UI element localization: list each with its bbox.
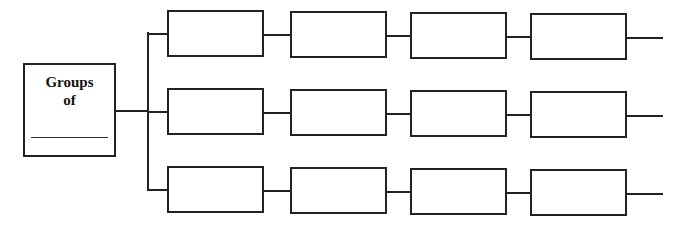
connector-line — [387, 113, 410, 115]
row-1-box-4[interactable] — [530, 13, 627, 60]
row-3-box-3[interactable] — [410, 168, 507, 215]
connector-line — [264, 190, 290, 192]
connector-line — [387, 191, 410, 193]
row-3-box-4[interactable] — [530, 169, 627, 216]
connector-line — [507, 114, 530, 116]
row-2-box-3[interactable] — [410, 90, 507, 137]
row-2-box-4[interactable] — [530, 91, 627, 138]
row-1-box-3[interactable] — [410, 12, 507, 59]
row-2-box-2[interactable] — [290, 89, 387, 136]
connector-line — [507, 192, 530, 194]
groups-of-box: Groups of — [23, 63, 116, 157]
connector-line — [264, 34, 290, 36]
row-branch-line — [147, 189, 168, 191]
groups-label: Groups — [25, 73, 114, 91]
of-label: of — [25, 91, 114, 109]
connector-line — [507, 36, 530, 38]
connector-line — [387, 35, 410, 37]
connector-line — [627, 37, 663, 39]
row-2-box-1[interactable] — [167, 88, 264, 135]
row-branch-line — [147, 33, 168, 35]
connector-line — [627, 193, 663, 195]
row-3-box-2[interactable] — [290, 167, 387, 214]
fill-in-blank-line[interactable] — [31, 137, 108, 138]
row-3-box-1[interactable] — [167, 166, 264, 213]
row-branch-line — [147, 111, 168, 113]
row-1-box-2[interactable] — [290, 11, 387, 58]
connector-line — [627, 115, 663, 117]
row-1-box-1[interactable] — [167, 10, 264, 57]
connector-line — [264, 112, 290, 114]
main-connector — [116, 110, 149, 112]
